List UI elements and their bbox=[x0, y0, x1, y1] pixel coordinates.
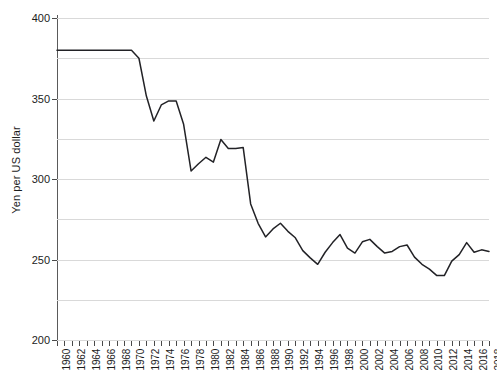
series-layer bbox=[0, 0, 497, 385]
series-line-yen-per-us-dollar bbox=[57, 50, 489, 275]
chart-figure: Yen per US dollar 0501001502002503003504… bbox=[0, 0, 497, 385]
